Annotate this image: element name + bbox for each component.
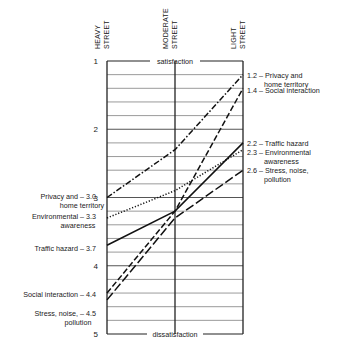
left-series-label: Privacy and – 3.0	[40, 192, 96, 201]
right-series-label: awareness	[264, 157, 299, 166]
y-tick-label: 4	[94, 262, 99, 271]
svg-text:STREET: STREET	[103, 20, 110, 49]
svg-text:HEAVY: HEAVY	[94, 25, 101, 49]
left-series-label: Environmental – 3.3	[32, 212, 96, 221]
svg-text:MODERATE: MODERATE	[162, 8, 169, 49]
left-series-label: pollution	[65, 318, 92, 327]
left-series-label: Social interaction – 4.4	[23, 290, 96, 299]
svg-text:LIGHT: LIGHT	[230, 27, 237, 49]
right-series-label: 2.2 – Traffic hazard	[247, 139, 308, 148]
column-header: MODERATESTREET	[162, 8, 178, 49]
column-header: HEAVYSTREET	[94, 20, 110, 49]
column-header: LIGHTSTREET	[230, 20, 246, 49]
svg-text:STREET: STREET	[171, 20, 178, 49]
y-tick-label: 5	[94, 330, 99, 339]
left-series-label: Traffic hazard – 3.7	[34, 244, 96, 253]
left-series-label: home territory	[60, 201, 105, 210]
svg-text:STREET: STREET	[239, 20, 246, 49]
right-series-label: pollution	[264, 175, 291, 184]
right-series-label: 2.3 – Environmental	[247, 148, 311, 157]
y-tick-label: 1	[94, 57, 99, 66]
right-series-label: 1.4 – Social interaction	[247, 86, 320, 95]
left-series-label: awareness	[61, 221, 96, 230]
left-series-label: Stress, noise, – 4.5	[34, 309, 96, 318]
right-series-label: 1.2 – Privacy and	[247, 71, 303, 80]
right-series-label: 2.6 – Stress, noise,	[247, 166, 309, 175]
y-tick-label: 2	[94, 125, 99, 134]
street-satisfaction-chart: satisfactiondissatisfaction12345HEAVYSTR…	[0, 0, 339, 347]
